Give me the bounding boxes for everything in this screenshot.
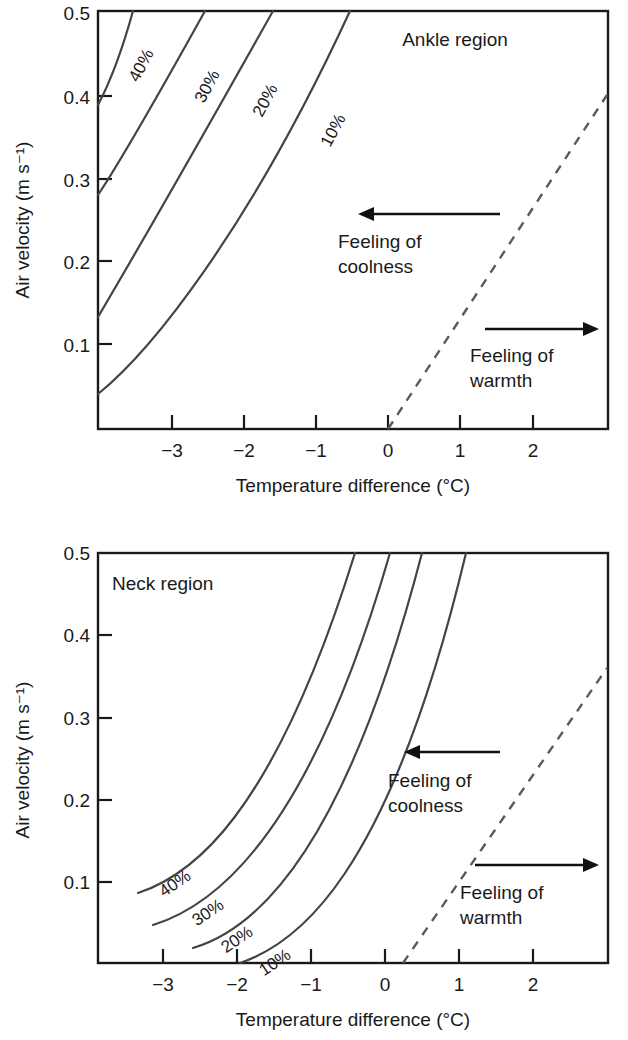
contour-label-10: 10% — [256, 945, 295, 980]
cool-direction-arrow — [404, 745, 500, 759]
chart-panel-ankle: Air velocity (m s⁻¹) 0.5 0.4 0.3 0.2 0.1 — [0, 0, 628, 520]
y-tick-label: 0.3 — [64, 170, 90, 191]
annotation-coolness-line2: coolness — [388, 795, 463, 816]
x-tick-label: 0 — [380, 974, 391, 995]
y-tick-label: 0.5 — [64, 543, 90, 564]
annotation-coolness-line2: coolness — [338, 256, 413, 277]
chart-panel-neck: Air velocity (m s⁻¹) 0.5 0.4 0.3 0.2 0.1 — [0, 520, 628, 1040]
contour-curve-20 — [98, 11, 273, 317]
panel-region-label-ankle: Ankle region — [402, 29, 508, 50]
x-tick-label: −1 — [300, 974, 322, 995]
warm-direction-arrow — [485, 322, 599, 336]
x-tick-label: 0 — [383, 440, 394, 461]
x-tick-label: −3 — [161, 440, 183, 461]
y-axis-title-neck: Air velocity (m s⁻¹) — [12, 682, 33, 839]
contour-label-30: 30% — [189, 895, 228, 930]
x-tick-label: 2 — [528, 974, 539, 995]
annotation-warmth-line1: Feeling of — [470, 345, 554, 366]
y-tick-label: 0.2 — [64, 790, 90, 811]
x-tick-label: −1 — [305, 440, 327, 461]
panel-region-label-neck: Neck region — [112, 573, 213, 594]
x-tick-marks — [172, 415, 533, 429]
annotation-warmth-line2: warmth — [459, 907, 522, 928]
neck-chart-svg: Air velocity (m s⁻¹) 0.5 0.4 0.3 0.2 0.1 — [0, 520, 628, 1040]
contour-curve-20 — [193, 553, 422, 948]
x-tick-label: −2 — [233, 440, 255, 461]
contour-label-30: 30% — [191, 67, 224, 106]
annotation-coolness-line1: Feeling of — [388, 770, 472, 791]
y-tick-label: 0.4 — [64, 625, 91, 646]
annotation-warmth-line1: Feeling of — [460, 882, 544, 903]
contour-label-10: 10% — [317, 111, 350, 150]
annotation-coolness-line1: Feeling of — [338, 231, 422, 252]
y-tick-label: 0.1 — [64, 335, 90, 356]
x-tick-label: 1 — [455, 440, 466, 461]
y-tick-label: 0.2 — [64, 252, 90, 273]
contour-label-20: 20% — [249, 81, 282, 120]
cool-direction-arrow — [358, 207, 500, 221]
x-tick-marks — [163, 949, 533, 963]
annotation-warmth-line2: warmth — [469, 370, 532, 391]
ankle-chart-svg: Air velocity (m s⁻¹) 0.5 0.4 0.3 0.2 0.1 — [0, 0, 628, 520]
y-tick-label: 0.5 — [64, 3, 90, 24]
contour-curve-30 — [98, 11, 205, 195]
x-axis-title-neck: Temperature difference (°C) — [236, 1009, 470, 1030]
x-axis-title-ankle: Temperature difference (°C) — [236, 475, 470, 496]
warm-direction-arrow — [475, 858, 599, 872]
plot-frame — [98, 11, 608, 429]
y-tick-label: 0.4 — [64, 87, 91, 108]
y-tick-label: 0.1 — [64, 872, 90, 893]
x-tick-label: −3 — [152, 974, 174, 995]
y-tick-marks — [98, 635, 112, 882]
contour-curve-30 — [153, 553, 390, 925]
y-axis-title-ankle: Air velocity (m s⁻¹) — [12, 142, 33, 299]
x-tick-label: 2 — [528, 440, 539, 461]
y-tick-label: 0.3 — [64, 708, 90, 729]
contour-label-40: 40% — [156, 866, 195, 901]
x-tick-label: −2 — [226, 974, 248, 995]
contour-curve-40 — [138, 553, 355, 893]
x-tick-label: 1 — [454, 974, 465, 995]
contour-curve-40 — [98, 11, 133, 105]
contour-label-40: 40% — [125, 46, 158, 85]
figure-container: Air velocity (m s⁻¹) 0.5 0.4 0.3 0.2 0.1 — [0, 0, 628, 1040]
